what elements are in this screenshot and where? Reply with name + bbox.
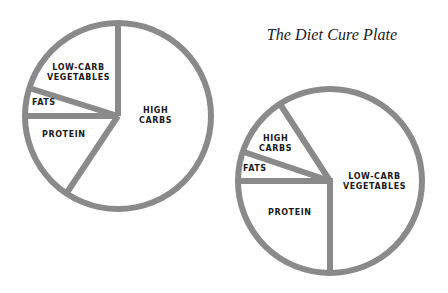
diet-cure-plate-label-protein: PROTEIN <box>268 208 312 218</box>
standard-plate-label-protein: PROTEIN <box>42 130 86 140</box>
diet-cure-plate-label-high-carbs: HIGH CARBS <box>259 134 292 154</box>
standard-plate-label-low-carb-vegetables: LOW-CARB VEGETABLES <box>47 63 110 83</box>
diet-cure-plate-label-fats: FATS <box>243 164 267 174</box>
diagram-title: The Diet Cure Plate <box>262 26 402 44</box>
standard-plate-pie <box>25 23 211 209</box>
standard-plate-label-fats: FATS <box>32 98 56 108</box>
standard-plate-label-high-carbs: HIGH CARBS <box>139 106 172 126</box>
diet-cure-plate-label-low-carb-vegetables: LOW-CARB VEGETABLES <box>343 172 406 192</box>
diet-plate-diagram: The Diet Cure Plate HIGH CARBS LOW-CARB … <box>0 0 448 293</box>
